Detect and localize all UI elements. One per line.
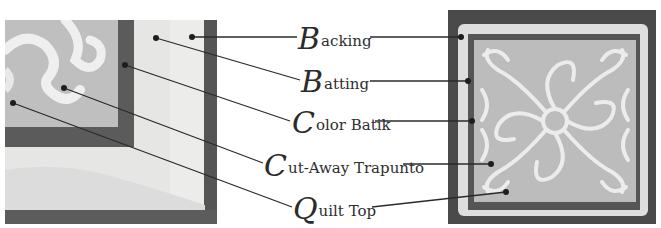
label-batting-rest: atting — [324, 75, 369, 93]
left-photo-graphic — [5, 20, 217, 224]
label-backing-initial: B — [298, 21, 320, 56]
label-batting: Batting — [301, 67, 369, 97]
label-color-batik-rest: olor Batik — [316, 116, 391, 134]
label-color-batik: Color Batik — [292, 108, 391, 138]
label-cut-away-trapunto: Cut-Away Trapunto — [264, 151, 424, 181]
label-batting-initial: B — [301, 64, 323, 99]
right-full-quilt-photo — [448, 10, 656, 224]
label-cut-away-trapunto-rest: ut-Away Trapunto — [288, 159, 424, 177]
label-quilt-top-rest: uilt Top — [319, 202, 377, 220]
label-cut-away-trapunto-initial: C — [264, 148, 287, 183]
label-quilt-top-initial: Q — [293, 191, 318, 226]
label-quilt-top: Quilt Top — [293, 194, 376, 224]
label-backing: Backing — [298, 24, 372, 54]
label-color-batik-initial: C — [292, 105, 315, 140]
right-photo-graphic — [448, 10, 656, 224]
label-backing-rest: acking — [321, 32, 372, 50]
left-closeup-photo — [5, 20, 217, 224]
